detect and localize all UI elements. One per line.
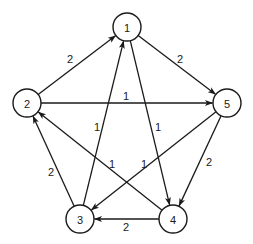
node-5: 5 <box>213 89 241 117</box>
node-2: 2 <box>13 89 41 117</box>
edge-weight-5-3: 1 <box>141 158 147 170</box>
node-label: 2 <box>24 98 30 110</box>
edge-weight-5-4: 2 <box>206 156 212 168</box>
edges-layer <box>33 35 221 219</box>
nodes-layer: 12345 <box>13 13 241 233</box>
directed-graph: 2211111222 12345 <box>0 0 253 244</box>
node-label: 1 <box>124 22 130 34</box>
edge-weight-4-2: 1 <box>109 158 115 170</box>
edge-weights-layer: 2211111222 <box>48 53 212 233</box>
edge-weight-1-5: 2 <box>177 53 183 65</box>
edge-weight-3-1: 1 <box>94 121 100 133</box>
node-3: 3 <box>66 205 94 233</box>
node-label: 3 <box>77 214 83 226</box>
edge-weight-1-4: 1 <box>155 121 161 133</box>
edge-weight-2-5: 1 <box>123 90 129 102</box>
edge-weight-4-3: 2 <box>123 221 129 233</box>
node-4: 4 <box>159 205 187 233</box>
edge-weight-3-2: 2 <box>48 166 54 178</box>
edge-3-to-2 <box>33 116 74 206</box>
edge-3-to-1 <box>83 41 123 205</box>
edge-2-to-1 <box>38 36 115 95</box>
edge-5-to-4 <box>179 116 221 206</box>
node-label: 4 <box>170 214 176 226</box>
node-label: 5 <box>224 98 230 110</box>
node-1: 1 <box>113 13 141 41</box>
edge-1-to-4 <box>130 41 169 205</box>
edge-weight-2-1: 2 <box>67 53 73 65</box>
